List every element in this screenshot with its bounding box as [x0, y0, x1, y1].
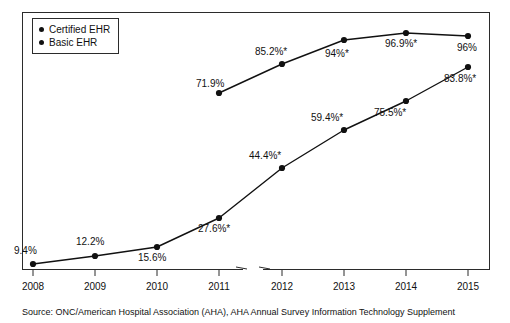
ehr-adoption-line-chart: Certified EHR Basic EHR	[0, 0, 510, 323]
chart-legend: Certified EHR Basic EHR	[32, 18, 119, 54]
data-point-certified-2015	[465, 33, 471, 39]
data-label-basic-2015: 83.8%*	[444, 73, 476, 84]
data-point-basic-2011	[216, 215, 222, 221]
legend-marker-icon	[39, 27, 44, 32]
data-label-basic-2008: 9.4%	[14, 245, 37, 256]
series-line-basic-ehr	[33, 67, 468, 264]
data-point-basic-2009	[92, 253, 98, 259]
data-label-basic-2012: 44.4%*	[249, 150, 281, 161]
data-label-basic-2009: 12.2%	[76, 236, 104, 247]
data-point-basic-2015	[465, 64, 471, 70]
data-label-basic-2013: 59.4%*	[311, 112, 343, 123]
data-point-certified-2011	[216, 90, 222, 96]
data-point-basic-2010	[154, 244, 160, 250]
data-point-basic-2013	[341, 127, 347, 133]
data-label-basic-2014: 75.5%*	[374, 107, 406, 118]
data-point-certified-2012	[279, 61, 285, 67]
data-label-certified-2014: 96.9%*	[385, 38, 417, 49]
data-label-certified-2013: 94%*	[325, 48, 349, 59]
legend-item-certified-ehr: Certified EHR	[39, 23, 110, 36]
legend-item-basic-ehr: Basic EHR	[39, 36, 110, 49]
data-label-basic-2010: 15.6%	[138, 252, 166, 263]
data-label-basic-2011: 27.6%*	[198, 223, 230, 234]
data-point-certified-2013	[341, 37, 347, 43]
data-label-certified-2012: 85.2%*	[255, 46, 287, 57]
legend-label-basic-ehr: Basic EHR	[49, 36, 97, 49]
data-point-basic-2012	[279, 165, 285, 171]
data-point-basic-2008	[30, 261, 36, 267]
legend-marker-icon	[39, 40, 44, 45]
data-point-basic-2014	[403, 98, 409, 104]
data-label-certified-2015: 96%	[457, 42, 477, 53]
data-label-certified-2011: 71.9%	[196, 78, 224, 89]
data-point-certified-2014	[403, 30, 409, 36]
legend-label-certified-ehr: Certified EHR	[49, 23, 110, 36]
